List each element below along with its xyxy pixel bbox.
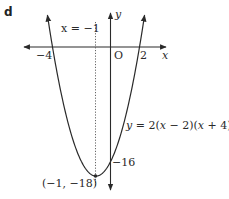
y-intercept-label: −16: [112, 156, 135, 169]
vertex-label: (−1, −18): [42, 177, 97, 190]
root-left-label: −4: [36, 49, 52, 62]
axis-of-symmetry-label: x = −1: [61, 22, 100, 35]
parabola-curve: [47, 15, 144, 176]
y-axis-label: y: [114, 8, 122, 21]
x-axis-label: x: [162, 49, 169, 62]
origin-label: O: [114, 49, 123, 62]
part-label: d: [4, 5, 13, 19]
equation-label: y = 2(x − 2)(x + 4): [125, 119, 229, 132]
root-right-label: 2: [140, 49, 147, 62]
parabola-diagram: d x = −1 −4 O 2 x y y = 2(x − 2)(x + 4) …: [0, 0, 229, 199]
